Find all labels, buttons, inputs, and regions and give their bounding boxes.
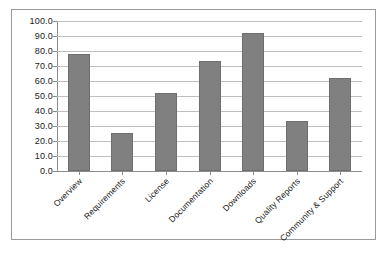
bar <box>329 78 351 171</box>
y-axis-tick-label: 10.0 <box>35 151 53 161</box>
y-axis-tick-label: 80.0 <box>35 46 53 56</box>
bar <box>199 61 221 171</box>
bars-layer <box>57 21 362 171</box>
bar <box>155 93 177 171</box>
y-axis-tick-label: 50.0 <box>35 91 53 101</box>
y-axis-tick-label: 100.0 <box>29 16 53 26</box>
y-axis-tick-label: 30.0 <box>35 121 53 131</box>
plot-area <box>57 21 362 171</box>
bar-slot <box>57 21 101 171</box>
bar <box>242 33 264 171</box>
x-axis-category-labels: OverviewRequirementsLicenseDocumentation… <box>57 173 362 239</box>
bar-slot <box>144 21 188 171</box>
bar <box>286 121 308 171</box>
bar-chart-figure: 100.090.080.070.060.050.040.030.020.010.… <box>11 9 376 240</box>
x-axis-category-label: Overview <box>51 176 84 209</box>
bar <box>111 133 133 171</box>
x-label-slot: Community & Support <box>318 173 362 239</box>
y-axis-tick-mark <box>53 171 57 172</box>
bar-slot <box>101 21 145 171</box>
bar-slot <box>188 21 232 171</box>
bar <box>68 54 90 171</box>
x-label-slot: Requirements <box>101 173 145 239</box>
y-axis-tick-label: 20.0 <box>35 136 53 146</box>
x-axis-category-label: License <box>143 176 171 204</box>
bar-slot <box>275 21 319 171</box>
y-axis-tick-label: 60.0 <box>35 76 53 86</box>
y-axis-tick-label: 90.0 <box>35 31 53 41</box>
y-axis-tick-label: 70.0 <box>35 61 53 71</box>
bar-slot <box>318 21 362 171</box>
y-axis-tick-label: 0.0 <box>40 166 53 176</box>
bar-slot <box>231 21 275 171</box>
y-axis-tick-labels: 100.090.080.070.060.050.040.030.020.010.… <box>12 21 53 171</box>
y-axis-tick-label: 40.0 <box>35 106 53 116</box>
